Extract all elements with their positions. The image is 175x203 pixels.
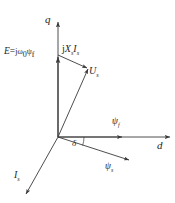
field-flux-label: ψf (112, 117, 120, 129)
terminal-voltage-label: Us (89, 66, 99, 78)
stator-current-vector (26, 137, 58, 194)
d-axis-label: d (157, 140, 163, 151)
emf-flux-sub: f (32, 50, 35, 59)
stator-current-label: Is (14, 170, 20, 182)
load-angle-arc (83, 137, 84, 146)
reactance-drop-label: jXsIs (62, 44, 79, 56)
terminal-voltage-vector (58, 69, 88, 137)
stator-current-sub: s (17, 175, 19, 182)
figure-canvas: q d E=jω0ψf jXsIs Us ψf ψs Is δ (0, 0, 175, 203)
phasor-diagram-svg (0, 0, 175, 203)
voltage-sub: s (96, 71, 98, 78)
stator-flux-sub: s (111, 167, 113, 173)
load-angle-label: δ (72, 139, 76, 148)
q-axis-label: q (45, 14, 51, 25)
field-flux-sub: f (118, 122, 120, 128)
stator-flux-label: ψs (105, 162, 113, 174)
emf-label: E=jω0ψf (4, 47, 34, 59)
stator-flux-vector (58, 137, 129, 160)
reactance-current-sub: s (77, 49, 79, 56)
reactance-drop-vector (58, 55, 87, 68)
